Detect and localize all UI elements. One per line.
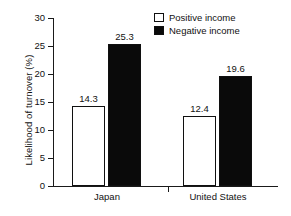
bar-united-states-negative [219,76,252,186]
x-axis-line [53,186,278,187]
bar-japan-positive [72,106,105,186]
y-tick-15: 15 [48,102,53,103]
y-tick-10: 10 [48,130,53,131]
y-tick-label-30: 30 [34,12,45,23]
legend-label-negative-income: Negative income [169,25,240,36]
bar-value-japan-positive: 14.3 [72,93,105,104]
y-tick-25: 25 [48,46,53,47]
y-tick-30: 30 [48,18,53,19]
white-square-icon [154,13,164,22]
legend-item-positive-income: Positive income [154,11,240,23]
y-tick-label-20: 20 [34,68,45,79]
y-tick-label-15: 15 [34,96,45,107]
y-tick-label-5: 5 [40,152,45,163]
black-square-icon [154,26,164,35]
legend-label-positive-income: Positive income [169,12,236,23]
x-axis-label-united-states: United States [168,191,268,202]
y-tick-0: 0 [48,186,53,187]
x-axis-label-japan: Japan [57,191,157,202]
y-tick-label-10: 10 [34,124,45,135]
y-tick-20: 20 [48,74,53,75]
y-tick-label-25: 25 [34,40,45,51]
y-tick-5: 5 [48,158,53,159]
y-axis-title: Likelihood of turnover (%) [22,30,36,190]
bar-value-united-states-negative: 19.6 [219,63,252,74]
bar-value-japan-negative: 25.3 [108,31,141,42]
plot-area: 30 25 20 15 10 5 0 14.3 25.3 12.4 [53,18,278,187]
y-axis-line [53,18,54,187]
bar-united-states-positive [183,116,216,185]
legend-item-negative-income: Negative income [154,24,240,36]
bar-japan-negative [108,44,141,185]
chart-legend: Positive income Negative income [154,11,240,37]
bar-chart-figure: Likelihood of turnover (%) 30 25 20 15 1… [0,0,291,216]
y-tick-label-0: 0 [40,180,45,191]
bar-value-united-states-positive: 12.4 [183,103,216,114]
